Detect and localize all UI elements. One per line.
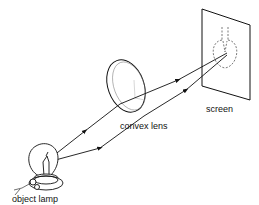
lens-label: convex lens [120,121,168,131]
object-lamp [14,144,63,195]
optics-diagram [0,0,259,205]
lamp-label: object lamp [12,194,58,204]
convex-lens [100,54,152,117]
screen [202,9,250,100]
screen-label: screen [206,104,233,114]
